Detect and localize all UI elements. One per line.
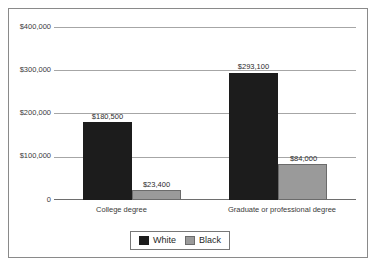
bar-college-degree-black[interactable] [132, 190, 181, 200]
y-axis: $400,000 $300,000 $200,000 $100,000 0 [0, 27, 51, 200]
y-tick-label-400000: $400,000 [20, 23, 51, 31]
y-tick-label-100000: $100,000 [20, 152, 51, 160]
bar-value-graduate-degree-black: $84,000 [271, 155, 336, 163]
bar-graduate-degree-black[interactable] [278, 164, 327, 200]
bar-value-college-degree-black: $23,400 [124, 181, 189, 189]
category-label-college-degree: College degree [62, 206, 181, 214]
gridline-400000 [62, 27, 356, 28]
bar-value-college-degree-white: $180,500 [75, 113, 140, 121]
legend-label-white: White [153, 236, 176, 245]
tick-stub-200000 [54, 113, 62, 114]
legend-item-black[interactable]: Black [185, 236, 221, 245]
legend-item-white[interactable]: White [139, 236, 176, 245]
tick-stub-0 [54, 199, 62, 200]
legend-swatch-white-icon [139, 236, 149, 245]
legend-swatch-black-icon [185, 236, 195, 245]
legend-label-black: Black [199, 236, 221, 245]
y-tick-label-0: 0 [47, 196, 51, 204]
y-tick-label-300000: $300,000 [20, 66, 51, 74]
gridline-300000 [62, 70, 356, 71]
tick-stub-100000 [54, 157, 62, 158]
chart-figure: $400,000 $300,000 $200,000 $100,000 0 $1… [0, 0, 379, 270]
bar-value-graduate-degree-white: $293,100 [221, 63, 286, 71]
chart-legend: White Black [130, 231, 230, 250]
y-tick-label-200000: $200,000 [20, 109, 51, 117]
tick-stub-400000 [54, 27, 62, 28]
tick-stub-300000 [54, 70, 62, 71]
bar-graduate-degree-white[interactable] [229, 73, 278, 200]
category-label-graduate-degree: Graduate or professional degree [208, 206, 356, 214]
plot-area: $180,500 $23,400 $293,100 $84,000 [62, 27, 356, 200]
